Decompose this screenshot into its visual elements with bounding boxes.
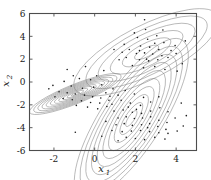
data-point [125, 57, 127, 59]
data-point [174, 117, 176, 119]
data-point [143, 67, 145, 69]
data-point [134, 32, 136, 34]
data-point [149, 131, 151, 133]
data-point [184, 40, 186, 42]
data-point [170, 50, 172, 52]
data-point [154, 137, 156, 139]
data-point [85, 66, 87, 68]
data-points-layer [48, 19, 187, 142]
data-point [100, 97, 102, 99]
data-point [147, 38, 149, 40]
data-point [158, 119, 160, 121]
y-tick-label: -6 [17, 146, 26, 156]
data-point [156, 35, 158, 37]
data-point [149, 123, 151, 125]
data-point [163, 42, 165, 44]
data-point [63, 81, 65, 83]
y-tick-label: -2 [17, 100, 26, 110]
data-point [120, 99, 122, 101]
data-point [167, 133, 169, 135]
data-point [97, 108, 99, 110]
data-point [131, 130, 133, 132]
y-axis-label: x [0, 81, 11, 87]
data-point [52, 85, 54, 87]
plot-border [30, 14, 197, 151]
data-point [140, 130, 142, 132]
x-axis-label-subscript: 1 [106, 169, 110, 177]
data-point [150, 110, 152, 112]
data-point [142, 117, 144, 119]
contour-ellipse [62, 33, 200, 180]
data-point [112, 88, 114, 90]
data-point [111, 130, 113, 132]
data-point [159, 107, 161, 109]
data-point [148, 60, 150, 62]
contour-ellipse [119, 32, 175, 72]
contour-ellipse [124, 109, 139, 128]
y-axis-label-subscript: 2 [6, 74, 14, 80]
data-point [108, 99, 110, 101]
data-point [75, 93, 77, 95]
x-tick-label: -2 [50, 154, 59, 164]
data-point [75, 131, 77, 133]
data-point [186, 115, 188, 117]
data-point [105, 121, 107, 123]
data-point [134, 93, 136, 95]
data-point [92, 96, 94, 98]
data-point [136, 109, 138, 111]
data-point [123, 123, 125, 125]
data-point [158, 132, 160, 134]
data-point [101, 135, 103, 137]
data-point [145, 29, 147, 31]
data-point [125, 137, 127, 139]
data-point [130, 102, 132, 104]
data-point [117, 94, 119, 96]
data-point [144, 139, 146, 141]
data-point [174, 45, 176, 47]
data-point [106, 106, 108, 108]
y-tick-label: 2 [20, 54, 26, 64]
data-point [113, 110, 115, 112]
data-point [150, 116, 152, 118]
data-point [175, 53, 177, 55]
data-point [157, 59, 159, 61]
data-point [54, 96, 56, 98]
data-point [122, 109, 124, 111]
data-point [113, 49, 115, 51]
data-point [140, 45, 142, 47]
data-point [139, 59, 141, 61]
data-point [90, 102, 92, 104]
data-point [125, 116, 127, 118]
data-point [82, 87, 84, 89]
x-axis-label: x [98, 163, 104, 174]
data-point [127, 106, 129, 108]
data-point [161, 55, 163, 57]
data-point [70, 85, 72, 87]
data-point [143, 97, 145, 99]
data-point [139, 50, 141, 52]
data-point [176, 70, 178, 72]
data-point [141, 124, 143, 126]
data-point [134, 118, 136, 120]
x-tick-label: 4 [173, 154, 179, 164]
data-point [146, 58, 148, 60]
data-point [167, 111, 169, 113]
data-point [84, 94, 86, 96]
data-point [165, 129, 167, 131]
data-point [72, 75, 74, 77]
data-point [109, 95, 111, 97]
data-point [167, 57, 169, 59]
data-point [121, 52, 123, 54]
data-point [136, 53, 138, 55]
data-point [164, 138, 166, 140]
data-point [62, 98, 64, 100]
data-point [181, 63, 183, 65]
x-tick-label: 2 [133, 154, 139, 164]
y-tick-label: -4 [17, 123, 26, 133]
data-point [166, 122, 168, 124]
contour-ellipse [93, 71, 170, 166]
data-point [66, 69, 68, 71]
data-point [158, 49, 160, 51]
data-point [123, 44, 125, 46]
data-point [81, 100, 83, 102]
